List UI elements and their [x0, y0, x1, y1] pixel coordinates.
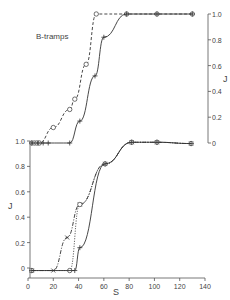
lower-y-tick-label: 0.4: [15, 214, 25, 221]
lower-plot: 00.20.40.60.81.0 020406080100120140 J S: [8, 138, 211, 297]
upper-plot: 00.20.40.60.81.0 J B-tramps: [29, 11, 227, 147]
lower-series: [29, 140, 193, 273]
lower-y-label: J: [8, 201, 13, 211]
lower-y-tick-label: 0.6: [15, 189, 25, 196]
lower-x-label: S: [113, 287, 119, 297]
lower-x-tick-label: 100: [149, 283, 161, 290]
lower-y-ticks: 00.20.40.60.81.0: [15, 138, 30, 272]
upper-y-label: J: [223, 74, 228, 84]
upper-y-tick-label: 0.8: [212, 37, 222, 44]
upper-y-tick-label: 0.6: [212, 63, 222, 70]
lower-x-tick-label: 20: [49, 283, 57, 290]
series: [30, 140, 193, 272]
lower-x-tick-label: 120: [174, 283, 186, 290]
lower-y-tick-label: 0: [21, 265, 25, 272]
upper-y-ticks: 00.20.40.60.81.0: [208, 11, 222, 147]
lower-x-tick-label: 0: [26, 283, 30, 290]
lower-x-tick-label: 40: [75, 283, 83, 290]
lower-x-tick-label: 60: [100, 283, 108, 290]
upper-annotation: B-tramps: [36, 32, 68, 41]
lower-y-tick-label: 1.0: [15, 138, 25, 145]
upper-y-tick-label: 0.4: [212, 88, 222, 95]
chart-figure: 00.20.40.60.81.0 J B-tramps 00.20.40.60.…: [0, 0, 230, 300]
lower-y-tick-label: 0.8: [15, 163, 25, 170]
lower-x-tick-label: 140: [199, 283, 211, 290]
upper-y-tick-label: 0: [212, 140, 216, 147]
upper-y-tick-label: 0.2: [212, 114, 222, 121]
series: [30, 140, 194, 273]
lower-x-tick-label: 80: [125, 283, 133, 290]
lower-y-tick-label: 0.2: [15, 240, 25, 247]
series: [29, 140, 193, 273]
upper-y-tick-label: 1.0: [212, 11, 222, 18]
